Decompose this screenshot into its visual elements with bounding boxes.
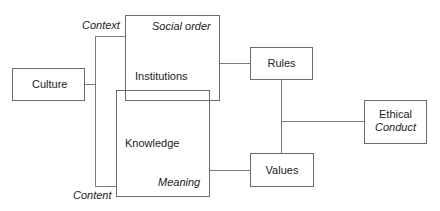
meaning-label: Meaning — [158, 176, 200, 189]
conduct-label: Conduct — [365, 121, 426, 134]
institutions-node: Social order Institutions — [125, 15, 220, 101]
culture-label: Culture — [32, 78, 67, 91]
rules-node: Rules — [250, 47, 313, 80]
rules-label: Rules — [251, 57, 312, 70]
social-order-label: Social order — [152, 20, 211, 33]
knowledge-values-connector — [210, 170, 250, 171]
culture-node: Culture — [12, 68, 85, 101]
context-label: Context — [82, 19, 120, 32]
values-label: Values — [251, 164, 313, 177]
bracket-bottom-connector — [95, 186, 117, 187]
knowledge-node: Knowledge Meaning — [116, 90, 210, 197]
institutions-rules-connector — [220, 63, 250, 64]
content-label: Content — [73, 189, 112, 202]
knowledge-label: Knowledge — [125, 137, 179, 150]
ethical-label: Ethical — [365, 108, 426, 121]
bracket-top-connector — [95, 36, 126, 37]
values-node: Values — [250, 153, 314, 187]
ethical-conduct-node: Ethical Conduct — [364, 100, 427, 144]
institutions-label: Institutions — [135, 70, 188, 83]
bracket-vertical — [95, 36, 96, 187]
rules-values-connector — [281, 80, 282, 153]
ethical-conduct-connector — [281, 121, 364, 122]
